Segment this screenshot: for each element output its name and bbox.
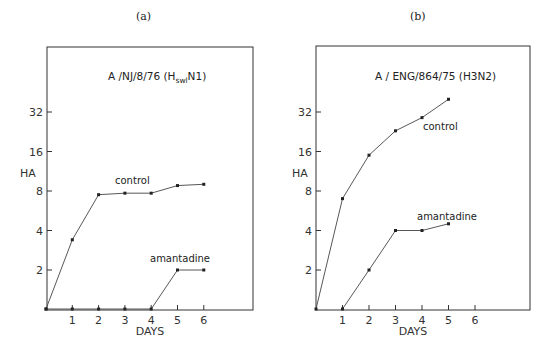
x-tick-label: 6 (472, 314, 479, 327)
data-point (150, 192, 153, 195)
y-tick-label: 2 (36, 264, 43, 277)
y-tick-label: 16 (298, 146, 312, 159)
data-point (447, 222, 450, 225)
y-tick-label: 8 (36, 185, 43, 198)
data-point (123, 308, 126, 311)
series-label-control: control (423, 121, 458, 132)
panel-label: (a) (136, 10, 151, 23)
series-line-amantadine (343, 224, 449, 309)
chart-canvas: (a)A /NJ/8/76 (HswlN1)2481632123456HADAY… (0, 0, 550, 360)
data-point (421, 116, 424, 119)
data-point (368, 269, 371, 272)
data-point (421, 229, 424, 232)
y-tick-label: 2 (305, 264, 312, 277)
chart-panel-a: (a)A /NJ/8/76 (HswlN1)2481632123456HADAY… (20, 10, 253, 338)
data-point (202, 183, 205, 186)
series-label-control: control (115, 175, 150, 186)
x-tick-label: 5 (174, 314, 181, 327)
data-point (45, 308, 48, 311)
plot-frame (316, 46, 530, 310)
panel-label: (b) (410, 10, 426, 23)
data-point (202, 269, 205, 272)
x-tick-label: 6 (200, 314, 207, 327)
data-point (97, 308, 100, 311)
x-tick-label: 2 (366, 314, 373, 327)
x-tick-label: 5 (445, 314, 452, 327)
series-label-amantadine: amantadine (150, 253, 210, 264)
strain-title: A / ENG/864/75 (H3N2) (375, 70, 496, 82)
data-point (394, 129, 397, 132)
y-tick-label: 32 (29, 106, 43, 119)
series-label-amantadine: amantadine (417, 211, 477, 222)
data-point (394, 229, 397, 232)
data-point (368, 154, 371, 157)
data-point (123, 192, 126, 195)
data-point (176, 269, 179, 272)
x-axis-label: DAYS (136, 325, 165, 338)
data-point (150, 308, 153, 311)
x-tick-label: 3 (121, 314, 128, 327)
data-point (341, 308, 344, 311)
y-tick-label: 32 (298, 106, 312, 119)
strain-title: A /NJ/8/76 (HswlN1) (108, 70, 206, 85)
data-point (97, 193, 100, 196)
plot-frame (47, 47, 253, 310)
x-tick-label: 1 (69, 314, 76, 327)
y-tick-label: 16 (29, 146, 43, 159)
y-axis-label: HA (20, 167, 36, 180)
y-tick-label: 4 (305, 225, 312, 238)
data-point (71, 238, 74, 241)
y-tick-label: 8 (305, 185, 312, 198)
x-tick-label: 2 (95, 314, 102, 327)
y-tick-label: 4 (36, 225, 43, 238)
x-tick-label: 1 (339, 314, 346, 327)
data-point (341, 197, 344, 200)
figure: (a)A /NJ/8/76 (HswlN1)2481632123456HADAY… (0, 0, 550, 360)
series-line-control (46, 184, 204, 309)
data-point (315, 308, 318, 311)
data-point (447, 98, 450, 101)
data-point (71, 308, 74, 311)
x-axis-label: DAYS (399, 325, 428, 338)
series-line-amantadine (46, 270, 204, 309)
data-point (176, 184, 179, 187)
y-axis-label: HA (292, 167, 308, 180)
chart-panel-b: (b)A / ENG/864/75 (H3N2)2481632123456HAD… (292, 10, 530, 338)
